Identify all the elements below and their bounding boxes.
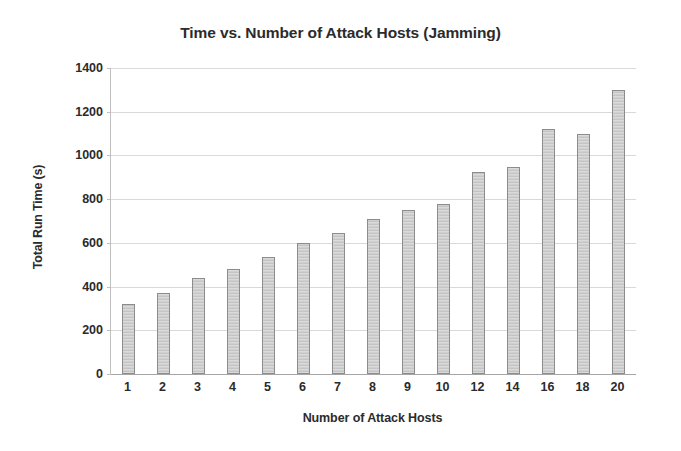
y-axis-tick-label: 600	[43, 237, 103, 250]
bar[interactable]	[262, 257, 275, 374]
y-axis-tick-label: 1400	[43, 62, 103, 75]
bar[interactable]	[227, 269, 240, 374]
x-axis-title: Number of Attack Hosts	[110, 411, 635, 425]
bar-slot	[216, 68, 251, 374]
bar[interactable]	[612, 90, 625, 374]
bar-slot	[321, 68, 356, 374]
x-axis-tick-labels: 123456789101214161820	[110, 380, 635, 394]
bar-slot	[181, 68, 216, 374]
x-axis-tick-label: 12	[460, 380, 495, 394]
bar-slot	[146, 68, 181, 374]
x-axis-tick-label: 8	[355, 380, 390, 394]
bar-slot	[111, 68, 146, 374]
x-axis-tick-label: 16	[530, 380, 565, 394]
bar[interactable]	[577, 134, 590, 374]
bar-slot	[391, 68, 426, 374]
bar[interactable]	[367, 219, 380, 374]
x-axis-tick-label: 5	[250, 380, 285, 394]
y-axis-tick-label: 1200	[43, 106, 103, 119]
x-axis-tick-label: 10	[425, 380, 460, 394]
chart-figure: Time vs. Number of Attack Hosts (Jamming…	[0, 0, 681, 451]
bar[interactable]	[542, 129, 555, 374]
x-axis-tick-label: 18	[565, 380, 600, 394]
bar[interactable]	[332, 233, 345, 374]
x-axis-tick-label: 9	[390, 380, 425, 394]
bar[interactable]	[402, 210, 415, 374]
bar-series	[111, 68, 636, 374]
bar[interactable]	[122, 304, 135, 374]
bar-slot	[531, 68, 566, 374]
plot-area: 0200400600800100012001400	[110, 68, 636, 375]
bar-slot	[426, 68, 461, 374]
y-axis-tick-label: 800	[43, 193, 103, 206]
bar-slot	[496, 68, 531, 374]
bar-slot	[356, 68, 391, 374]
x-axis-tick-label: 20	[600, 380, 635, 394]
bar-slot	[566, 68, 601, 374]
x-axis-tick-label: 7	[320, 380, 355, 394]
y-axis-tick-label: 200	[43, 324, 103, 337]
bar[interactable]	[507, 167, 520, 374]
y-axis-tick-mark	[107, 374, 111, 375]
x-axis-tick-label: 6	[285, 380, 320, 394]
bar[interactable]	[192, 278, 205, 374]
y-axis-tick-label: 1000	[43, 149, 103, 162]
x-axis-tick-label: 2	[145, 380, 180, 394]
bar[interactable]	[437, 204, 450, 374]
y-axis-tick-label: 400	[43, 281, 103, 294]
bar-slot	[461, 68, 496, 374]
bar[interactable]	[157, 293, 170, 374]
bar-slot	[601, 68, 636, 374]
x-axis-tick-label: 4	[215, 380, 250, 394]
x-axis-tick-label: 1	[110, 380, 145, 394]
x-axis-tick-label: 3	[180, 380, 215, 394]
chart-title: Time vs. Number of Attack Hosts (Jamming…	[0, 24, 681, 42]
bar[interactable]	[297, 243, 310, 374]
bar-slot	[251, 68, 286, 374]
bar[interactable]	[472, 172, 485, 374]
bar-slot	[286, 68, 321, 374]
x-axis-tick-label: 14	[495, 380, 530, 394]
y-axis-tick-label: 0	[43, 368, 103, 381]
